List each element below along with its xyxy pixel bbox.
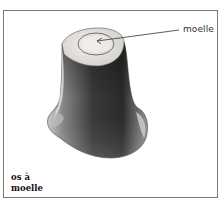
caption-line-1: os à — [11, 172, 43, 183]
caption-line-2: moelle — [11, 183, 43, 194]
figure-caption: os à moelle — [11, 172, 43, 194]
marrow-label: moelle — [183, 24, 214, 34]
